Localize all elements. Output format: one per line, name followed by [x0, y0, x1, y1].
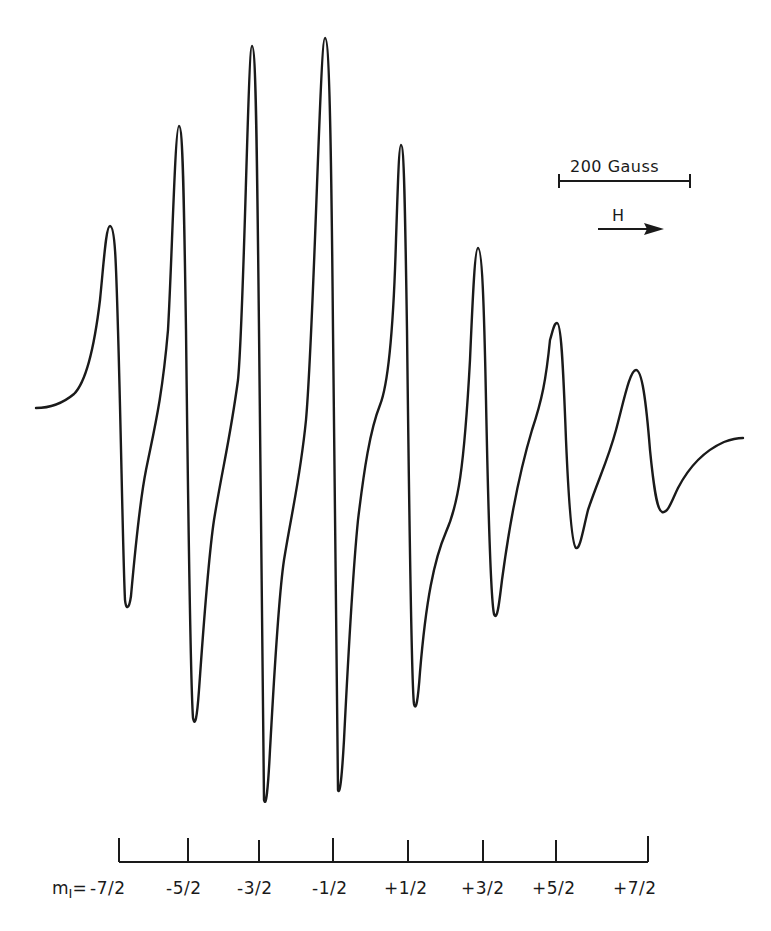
- tick-label-m-1-2: -1/2: [312, 878, 348, 898]
- field-direction-arrow: [598, 223, 664, 235]
- hyperfine-tick-bar: [119, 836, 648, 862]
- m-prefix: m: [52, 878, 69, 898]
- quantum-number-label: mI=: [52, 878, 87, 901]
- tick-label-m+3-2: +3/2: [461, 878, 505, 898]
- tick-label-m-5-2: -5/2: [166, 878, 202, 898]
- epr-spectrum-figure: [0, 0, 771, 931]
- epr-derivative-curve: [36, 38, 743, 802]
- arrow-head-icon: [644, 223, 664, 235]
- tick-label-m+5-2: +5/2: [532, 878, 576, 898]
- tick-label-m-7-2: -7/2: [90, 878, 126, 898]
- m-equals: =: [72, 878, 86, 898]
- scale-bar-200-gauss: [559, 174, 690, 188]
- tick-label-m+7-2: +7/2: [613, 878, 657, 898]
- tick-label-m-3-2: -3/2: [237, 878, 273, 898]
- field-direction-label: H: [612, 206, 624, 225]
- scale-bar-label: 200 Gauss: [570, 157, 659, 176]
- tick-label-m+1-2: +1/2: [384, 878, 428, 898]
